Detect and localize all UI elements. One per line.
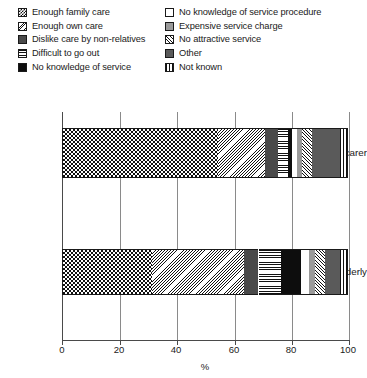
xtick-label-80: 80 — [286, 344, 297, 355]
segment-not-known — [340, 128, 348, 178]
segment-not-known — [340, 249, 348, 295]
x-axis-title: % — [201, 361, 209, 372]
xtick-label-40: 40 — [171, 344, 182, 355]
segment-dislike-care-by-non-relatives — [265, 128, 278, 178]
bar-the-carer — [62, 128, 348, 178]
stacked-bar-chart: 0 20 40 60 80 100 % The carer The elderl… — [0, 0, 367, 378]
segment-enough-own-care — [152, 249, 244, 295]
segment-no-knowledge-of-service-procedure — [301, 249, 309, 295]
segment-difficult-to-go-out — [278, 128, 288, 178]
segment-enough-family-care — [62, 128, 218, 178]
segment-no-knowledge-of-service — [281, 249, 301, 295]
segment-dislike-care-by-non-relatives — [244, 249, 259, 295]
xtick-label-20: 20 — [114, 344, 125, 355]
segment-enough-own-care — [218, 128, 265, 178]
xtick-label-60: 60 — [229, 344, 240, 355]
bar-the-elderly — [62, 249, 348, 295]
segment-expensive-service-charge — [309, 249, 316, 295]
segment-no-attractive-service — [315, 249, 325, 295]
segment-other — [325, 249, 340, 295]
xtick-label-0: 0 — [59, 344, 64, 355]
segment-other — [312, 128, 340, 178]
xtick-label-100: 100 — [340, 344, 356, 355]
segment-difficult-to-go-out — [259, 249, 281, 295]
segment-enough-family-care — [62, 249, 152, 295]
segment-no-attractive-service — [302, 128, 312, 178]
